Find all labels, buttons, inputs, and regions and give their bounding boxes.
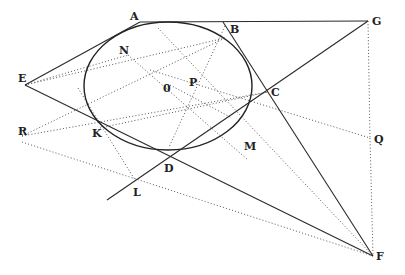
label-M: M	[244, 140, 256, 153]
label-O: 0	[163, 82, 171, 95]
geometry-diagram: A B G E N 0 P C R K M Q D L F	[0, 0, 405, 275]
label-K: K	[92, 127, 102, 140]
solid-lines	[25, 21, 373, 256]
label-D: D	[164, 162, 174, 175]
label-C: C	[271, 86, 280, 99]
label-B: B	[230, 23, 239, 36]
label-Q: Q	[374, 133, 384, 146]
label-R: R	[18, 125, 28, 138]
label-L: L	[133, 186, 141, 199]
label-E: E	[18, 72, 26, 85]
label-G: G	[372, 15, 381, 28]
label-F: F	[376, 250, 384, 263]
label-N: N	[119, 44, 129, 57]
label-P: P	[189, 76, 197, 89]
label-A: A	[129, 10, 139, 23]
